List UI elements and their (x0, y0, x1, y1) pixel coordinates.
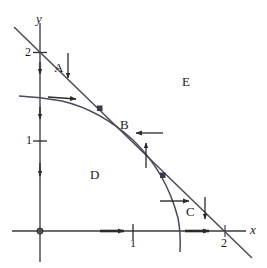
straight-line (14, 27, 252, 258)
region-label-c: C (186, 205, 195, 218)
x-axis-label: x (250, 223, 256, 236)
intersection-point-lower (160, 173, 166, 179)
y-axis-label: y (36, 12, 42, 25)
math-figure: y x 2 1 1 2 A B C D E (0, 0, 267, 268)
region-label-e: E (182, 75, 190, 88)
x-tick-label-2: 2 (221, 237, 227, 249)
x-tick-label-1: 1 (130, 237, 136, 249)
y-tick-label-1: 1 (26, 134, 32, 146)
region-label-b: B (120, 118, 129, 131)
figure-canvas (0, 0, 267, 268)
y-tick-label-2: 2 (25, 46, 31, 58)
region-label-d: D (90, 168, 99, 181)
intersection-point-upper (97, 106, 103, 112)
region-label-a: A (54, 61, 63, 74)
circular-arc (19, 96, 180, 252)
